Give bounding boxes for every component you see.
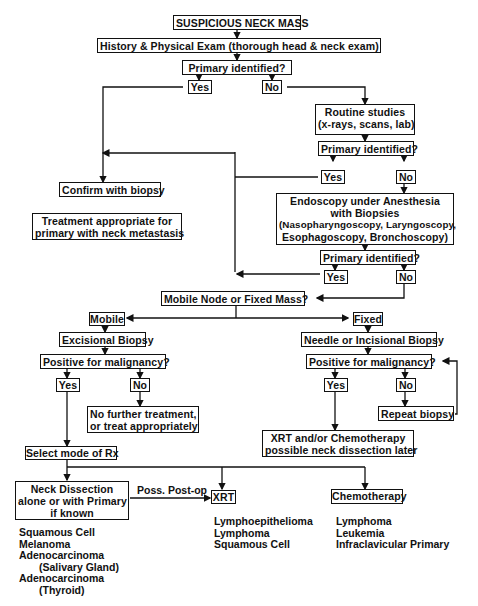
xrt-indications: Lymphoepithelioma Lymphoma Squamous Cell xyxy=(214,516,313,551)
routine-studies-node: Routine studies (x-rays, scans, lab) xyxy=(315,104,415,135)
yes-left: Yes xyxy=(56,378,80,392)
chemotherapy-indications: Lymphoma Leukemia Infraclavicular Primar… xyxy=(336,516,449,551)
excisional-biopsy-node: Excisional Biopsy xyxy=(59,332,146,347)
chemo-item: Infraclavicular Primary xyxy=(336,539,449,551)
xrt-chemo-node: XRT and/or Chemotherapy possible neck di… xyxy=(262,430,414,457)
xrt-node: XRT xyxy=(211,490,236,504)
no-1: No xyxy=(262,80,282,94)
yes-1: Yes xyxy=(188,80,212,94)
treatment-line-1: Treatment appropriate for xyxy=(35,215,179,227)
routine-line-2: (x-rays, scans, lab) xyxy=(318,118,412,130)
chemotherapy-node: Chemotherapy xyxy=(331,489,403,504)
endoscopy-line-3: (Nasopharyngoscopy, Laryngoscopy, xyxy=(279,219,451,231)
positive-malignancy-left: Positive for malignancy? xyxy=(40,354,166,369)
confirm-biopsy-node: Confirm with biopsy xyxy=(59,182,161,197)
endoscopy-line-1: Endoscopy under Anesthesia xyxy=(279,195,451,207)
no-left: No xyxy=(130,378,150,392)
yes-3: Yes xyxy=(324,270,348,284)
no-2: No xyxy=(396,170,416,184)
positive-malignancy-right: Positive for malignancy? xyxy=(306,354,432,369)
nd-item: Adenocarcinoma xyxy=(19,550,119,562)
yes-2: Yes xyxy=(321,170,345,184)
neck-dissection-node: Neck Dissection alone or with Primary if… xyxy=(15,481,129,520)
chemo-item: Lymphoma xyxy=(336,516,449,528)
no-further-line-2: or treat appropriately xyxy=(90,420,196,432)
primary-identified-q2: Primary identified? xyxy=(318,141,414,156)
neck-dissection-line-3: if known xyxy=(18,507,126,519)
primary-identified-q3: Primary identified? xyxy=(320,250,416,265)
no-further-line-1: No further treatment, xyxy=(90,408,196,420)
endoscopy-line-2: with Biopsies xyxy=(279,207,451,219)
xrt-chemo-line-1: XRT and/or Chemotherapy xyxy=(265,432,411,444)
needle-biopsy-node: Needle or Incisional Biopsy xyxy=(301,332,437,347)
poss-postop-label: Poss. Post-op xyxy=(137,485,207,497)
nd-item: Adenocarcinoma xyxy=(19,573,119,585)
select-mode-rx-node: Select mode of Rx xyxy=(25,446,117,460)
endoscopy-line-4: Esophagoscopy, Bronchoscopy) xyxy=(279,231,451,243)
mobile-fixed-q: Mobile Node or Fixed Mass? xyxy=(161,291,305,306)
history-exam-node: History & Physical Exam (thorough head &… xyxy=(97,38,381,53)
nd-item: (Thyroid) xyxy=(19,585,119,597)
primary-identified-q1: Primary identified? xyxy=(182,60,292,75)
no-further-treatment-node: No further treatment, or treat appropria… xyxy=(87,406,199,433)
mobile-node: Mobile xyxy=(89,312,125,326)
xrt-item: Lymphoepithelioma xyxy=(214,516,313,528)
repeat-biopsy-node: Repeat biopsy xyxy=(378,406,454,421)
fixed-node: Fixed xyxy=(353,312,383,326)
nd-item: Squamous Cell xyxy=(19,527,119,539)
yes-right: Yes xyxy=(324,378,348,392)
no-right: No xyxy=(396,378,416,392)
xrt-item: Squamous Cell xyxy=(214,539,313,551)
treatment-metastasis-node: Treatment appropriate for primary with n… xyxy=(32,213,182,240)
xrt-chemo-line-2: possible neck dissection later xyxy=(265,444,411,456)
routine-line-1: Routine studies xyxy=(318,106,412,118)
no-3: No xyxy=(396,270,416,284)
treatment-line-2: primary with neck metastasis xyxy=(35,227,179,239)
endoscopy-node: Endoscopy under Anesthesia with Biopsies… xyxy=(276,193,454,245)
neck-dissection-indications: Squamous Cell Melanoma Adenocarcinoma (S… xyxy=(19,527,119,596)
neck-dissection-line-2: alone or with Primary xyxy=(18,495,126,507)
start-node: SUSPICIOUS NECK MASS xyxy=(173,15,301,30)
neck-dissection-line-1: Neck Dissection xyxy=(18,483,126,495)
